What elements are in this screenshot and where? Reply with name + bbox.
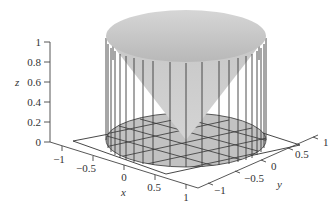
y-axis-label: y [276,178,282,190]
z-axis-label: z [14,76,20,88]
svg-text:0.6: 0.6 [27,76,41,88]
svg-text:0: 0 [121,171,127,183]
svg-text:0.2: 0.2 [27,116,41,128]
svg-text:−1: −1 [53,153,65,165]
svg-text:0: 0 [36,136,42,148]
svg-text:0.8: 0.8 [27,56,41,68]
svg-text:0.4: 0.4 [27,96,41,108]
z-tick-labels: 1 0.8 0.6 0.4 0.2 0 [27,36,41,148]
svg-text:0.5: 0.5 [147,181,161,193]
z-axis [44,42,50,142]
cone-cylinder-3d-plot: 1 0.8 0.6 0.4 0.2 0 z −1 −0.5 0 0.5 1 x … [0,0,336,214]
svg-text:−1: −1 [214,184,226,196]
svg-text:1: 1 [323,136,329,148]
svg-text:−0.5: −0.5 [244,172,264,184]
x-axis-label: x [120,186,126,198]
svg-text:1: 1 [183,191,189,203]
svg-text:1: 1 [36,36,42,48]
cone-top-rim [106,10,266,62]
svg-text:0: 0 [271,160,277,172]
svg-text:0.5: 0.5 [295,148,309,160]
svg-text:−0.5: −0.5 [76,162,96,174]
